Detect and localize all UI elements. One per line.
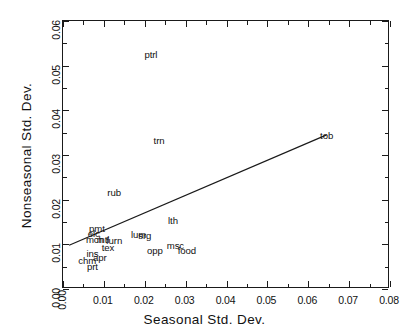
data-point-label: srg — [138, 231, 151, 241]
axis-tick — [63, 133, 67, 134]
axis-tick — [227, 21, 228, 27]
axis-tick — [63, 267, 67, 268]
data-point-label: rub — [107, 188, 121, 198]
axis-tick — [385, 222, 389, 223]
axis-tick — [385, 88, 389, 89]
axis-tick — [165, 21, 166, 25]
axis-tick — [63, 200, 69, 201]
y-axis-title: Nonseasonal Std. Dev. — [19, 56, 34, 256]
axis-tick — [382, 200, 388, 201]
y-tick-label: 0.01 — [50, 243, 62, 283]
axis-tick — [63, 43, 67, 44]
axis-tick — [227, 281, 228, 287]
axis-tick — [288, 284, 289, 288]
data-point-label: trn — [154, 136, 165, 146]
axis-tick — [385, 177, 389, 178]
data-point-label: ptrl — [144, 50, 157, 60]
y-tick-label: 0.00 — [50, 288, 62, 328]
axis-tick — [370, 21, 371, 25]
axis-tick — [308, 21, 309, 27]
data-point-label: lth — [168, 216, 178, 226]
axis-tick — [329, 284, 330, 288]
axis-tick — [382, 289, 388, 290]
y-tick-label: 0.04 — [50, 109, 62, 149]
axis-tick — [382, 244, 388, 245]
axis-tick — [247, 284, 248, 288]
axis-tick — [385, 267, 389, 268]
axis-tick — [145, 281, 146, 287]
x-tick-label: 0.03 — [175, 294, 195, 306]
data-point-label: opp — [147, 246, 163, 256]
data-point-label: food — [178, 246, 196, 256]
axis-tick — [382, 155, 388, 156]
axis-tick — [267, 21, 268, 27]
x-tick-label: 0.06 — [297, 294, 317, 306]
x-tick-label: 0.04 — [216, 294, 236, 306]
axis-tick — [124, 284, 125, 288]
axis-tick — [247, 21, 248, 25]
axis-tick — [206, 284, 207, 288]
y-tick-label: 0.06 — [50, 20, 62, 60]
axis-tick — [385, 133, 389, 134]
axis-tick — [382, 21, 388, 22]
y-tick-label: 0.02 — [50, 199, 62, 239]
data-point-label: prt — [87, 262, 98, 272]
axis-tick — [349, 281, 350, 287]
axis-tick — [206, 21, 207, 25]
axis-tick — [165, 284, 166, 288]
axis-tick — [145, 21, 146, 27]
axis-tick — [329, 21, 330, 25]
axis-tick — [104, 281, 105, 287]
axis-tick — [63, 155, 69, 156]
x-tick-label: 0.01 — [93, 294, 113, 306]
plot-area: ptrltobtrnrublthpmtelclumsrgmchmtlfurnms… — [62, 20, 389, 288]
scatter-plot-figure: ptrltobtrnrublthpmtelclumsrgmchmtlfurnms… — [0, 0, 409, 335]
x-tick-label: 0.05 — [257, 294, 277, 306]
axis-tick — [186, 21, 187, 27]
axis-tick — [63, 21, 69, 22]
axis-tick — [124, 21, 125, 25]
axis-tick — [83, 284, 84, 288]
axis-tick — [382, 110, 388, 111]
axis-tick — [63, 244, 69, 245]
axis-tick — [308, 281, 309, 287]
axis-tick — [349, 21, 350, 27]
axis-tick — [83, 21, 84, 25]
axis-tick — [382, 66, 388, 67]
axis-tick — [63, 110, 69, 111]
axis-tick — [267, 281, 268, 287]
axis-tick — [63, 177, 67, 178]
y-tick-label: 0.03 — [50, 154, 62, 194]
axis-tick — [186, 281, 187, 287]
axis-tick — [63, 88, 67, 89]
axis-tick — [390, 21, 391, 27]
axis-tick — [63, 66, 69, 67]
axis-tick — [288, 21, 289, 25]
y-tick-label: 0.05 — [50, 65, 62, 105]
axis-tick — [104, 21, 105, 27]
x-tick-label: 0.08 — [379, 294, 399, 306]
x-tick-label: 0.07 — [338, 294, 358, 306]
axis-tick — [63, 281, 64, 287]
axis-tick — [63, 222, 67, 223]
data-point-label: tob — [320, 131, 333, 141]
axis-tick — [385, 43, 389, 44]
x-tick-label: 0.02 — [134, 294, 154, 306]
axis-tick — [370, 284, 371, 288]
axis-tick — [390, 281, 391, 287]
